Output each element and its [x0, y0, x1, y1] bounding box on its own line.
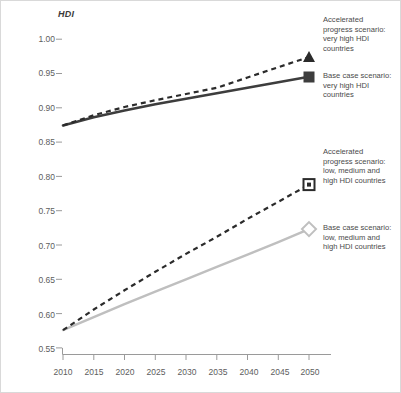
legend-line: countries [323, 44, 401, 54]
legend-line: high HDI countries [323, 176, 401, 186]
legend-line: high HDI countries [323, 242, 401, 252]
legend-item-base-very-high: Base case scenario: very high HDI countr… [323, 71, 401, 100]
series-line-base-low-medium-high [63, 229, 309, 330]
legend-item-base-low-medium-high: Base case scenario: low, medium and high… [323, 223, 401, 252]
legend-item-accelerated-very-high: Accelerated progress scenario: very high… [323, 15, 401, 53]
legend-line: progress scenario: [323, 157, 401, 167]
legend-line: low, medium and [323, 233, 401, 243]
marker-square-base-very-high [304, 72, 315, 83]
marker-square-dot-accelerated-low-medium-high [304, 179, 315, 190]
legend-line: progress scenario: [323, 25, 401, 35]
legend-line: countries [323, 90, 401, 100]
marker-diamond-base-low-medium-high [302, 222, 316, 236]
series-line-accelerated-low-medium-high [63, 185, 309, 331]
legend-line: very high HDI [323, 81, 401, 91]
legend-line: low, medium and [323, 166, 401, 176]
marker-triangle-accelerated-very-high [303, 51, 315, 62]
legend-line: Base case scenario: [323, 71, 401, 81]
legend-item-accelerated-low-medium-high: Accelerated progress scenario: low, medi… [323, 147, 401, 185]
legend-line: Base case scenario: [323, 223, 401, 233]
x-axis-ticks [63, 355, 309, 361]
y-axis-ticks [56, 39, 62, 348]
legend-line: very high HDI [323, 34, 401, 44]
series-line-base-very-high [63, 77, 309, 126]
hdi-projection-chart: HDI 1.00 0.95 0.90 0.85 0.80 0.75 0.70 0… [0, 0, 401, 393]
legend-line: Accelerated [323, 15, 401, 25]
legend-line: Accelerated [323, 147, 401, 157]
